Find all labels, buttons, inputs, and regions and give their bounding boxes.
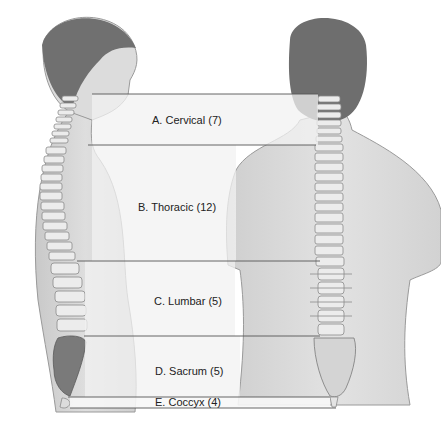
- label-coccyx: E. Coccyx (4): [155, 396, 221, 408]
- posterior-figure: [226, 18, 441, 407]
- spine-regions-diagram: A. Cervical (7) B. Thoracic (12) C. Lumb…: [0, 0, 441, 430]
- label-sacrum: D. Sacrum (5): [155, 365, 223, 377]
- label-cervical: A. Cervical (7): [152, 114, 222, 126]
- label-thoracic: B. Thoracic (12): [138, 201, 216, 213]
- label-lumbar: C. Lumbar (5): [154, 295, 222, 307]
